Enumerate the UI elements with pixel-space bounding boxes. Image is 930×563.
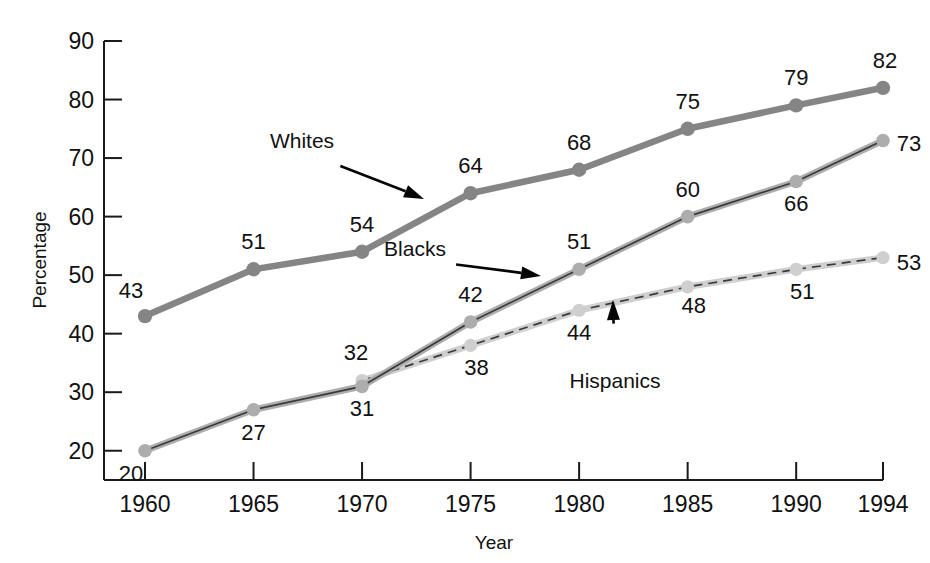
- chart-canvas: 2030405060708090 19601965197019751980198…: [0, 0, 930, 563]
- x-axis-title: Year: [475, 532, 514, 553]
- value-label-whites-1960: 43: [119, 278, 143, 303]
- x-tick-label-1970: 1970: [336, 491, 387, 517]
- annotation-arrowhead-blacks: [520, 266, 541, 279]
- value-label-hispanics-1980: 44: [567, 320, 591, 345]
- y-tick-label-80: 80: [68, 87, 94, 113]
- axes-group: [104, 41, 883, 480]
- y-ticks-group: 2030405060708090: [68, 28, 122, 464]
- blacks-point-1970: [355, 380, 369, 394]
- y-tick-label-30: 30: [68, 379, 94, 405]
- x-tick-label-1990: 1990: [771, 491, 822, 517]
- line-chart: 2030405060708090 19601965197019751980198…: [0, 0, 930, 563]
- value-label-whites-1970: 54: [350, 212, 374, 237]
- hispanics-point-1985: [681, 280, 694, 293]
- hispanics-point-1980: [573, 304, 586, 317]
- value-label-blacks-1994: 73: [897, 131, 921, 156]
- hispanics-line-halo: [362, 258, 883, 381]
- value-label-hispanics-1990: 51: [790, 279, 814, 304]
- blacks-point-1975: [464, 315, 478, 329]
- annotation-arrowhead-whites: [403, 185, 424, 199]
- whites-point-1970: [355, 245, 369, 259]
- hispanics-point-1975: [464, 339, 477, 352]
- value-label-blacks-1965: 27: [241, 420, 265, 445]
- y-tick-label-20: 20: [68, 438, 94, 464]
- blacks-point-1980: [572, 262, 586, 276]
- x-tick-label-1965: 1965: [228, 491, 279, 517]
- whites-point-1985: [680, 122, 694, 136]
- value-label-whites-1980: 68: [567, 130, 591, 155]
- blacks-point-1994: [876, 134, 890, 148]
- x-ticks-group: 19601965197019751980198519901994: [119, 462, 908, 517]
- x-tick-label-1960: 1960: [119, 491, 170, 517]
- value-label-hispanics-1985: 48: [681, 293, 705, 318]
- value-label-blacks-1975: 42: [458, 282, 482, 307]
- series-hispanics: [355, 251, 889, 387]
- value-label-hispanics-1970: 32: [344, 340, 368, 365]
- y-tick-label-90: 90: [68, 28, 94, 54]
- y-tick-label-40: 40: [68, 321, 94, 347]
- annotation-label-hispanics: Hispanics: [569, 369, 660, 392]
- value-label-blacks-1985: 60: [675, 177, 699, 202]
- value-label-whites-1985: 75: [675, 89, 699, 114]
- annotation-label-whites: Whites: [270, 129, 334, 152]
- blacks-point-1960: [138, 444, 152, 458]
- x-tick-label-1994: 1994: [857, 491, 908, 517]
- value-label-blacks-1970: 31: [350, 396, 374, 421]
- value-label-hispanics-1994: 53: [897, 250, 921, 275]
- annotation-label-blacks: Blacks: [384, 237, 446, 260]
- y-axis-title: Percentage: [29, 211, 50, 308]
- x-tick-label-1985: 1985: [662, 491, 713, 517]
- blacks-point-1990: [789, 175, 803, 189]
- x-tick-label-1975: 1975: [445, 491, 496, 517]
- value-label-whites-1990: 79: [784, 65, 808, 90]
- value-label-blacks-1990: 66: [784, 191, 808, 216]
- hispanics-point-1994: [876, 251, 889, 264]
- y-tick-label-60: 60: [68, 204, 94, 230]
- whites-point-1960: [138, 309, 152, 323]
- hispanics-point-1990: [790, 263, 803, 276]
- series-whites: [138, 81, 890, 324]
- whites-point-1975: [463, 186, 477, 200]
- whites-point-1980: [572, 163, 586, 177]
- blacks-point-1985: [681, 210, 695, 224]
- y-tick-label-50: 50: [68, 262, 94, 288]
- value-label-whites-1975: 64: [458, 153, 482, 178]
- whites-point-1990: [789, 98, 803, 112]
- value-label-blacks-1960: 20: [119, 461, 143, 486]
- annotation-arrow-whites: [340, 166, 405, 191]
- value-label-hispanics-1975: 38: [464, 355, 488, 380]
- value-label-blacks-1980: 51: [567, 229, 591, 254]
- value-label-whites-1994: 82: [873, 48, 897, 73]
- hispanics-line-dashed: [362, 258, 883, 381]
- value-label-whites-1965: 51: [241, 229, 265, 254]
- x-tick-label-1980: 1980: [554, 491, 605, 517]
- blacks-point-1965: [247, 403, 261, 417]
- annotation-arrow-blacks: [456, 265, 521, 273]
- whites-point-1994: [876, 81, 890, 95]
- whites-line: [145, 88, 883, 316]
- y-tick-label-70: 70: [68, 145, 94, 171]
- whites-point-1965: [246, 262, 260, 276]
